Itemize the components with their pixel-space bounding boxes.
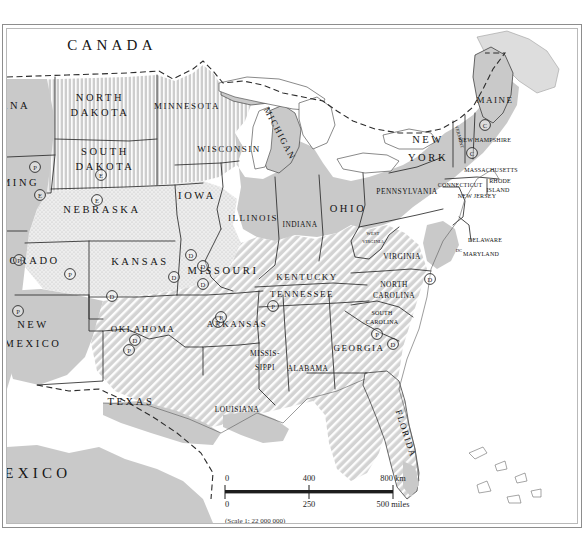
- state-label-georgia: GEORGIA: [334, 343, 385, 353]
- island-3: [515, 473, 527, 483]
- marker-letter: P: [16, 308, 20, 315]
- state-label-minnesota: MINNESOTA: [154, 101, 220, 111]
- island-5: [507, 495, 521, 503]
- marker-letter: D: [391, 341, 396, 348]
- marker-letter: D: [428, 276, 433, 283]
- map-marker-p-4[interactable]: P: [14, 255, 25, 266]
- map-marker-d-8[interactable]: D: [186, 250, 197, 261]
- map-marker-p-16[interactable]: P: [268, 301, 279, 312]
- scale-bar-graphic: [225, 485, 393, 499]
- state-label-ana: ANA: [7, 100, 30, 111]
- map-canvas[interactable]: CANADAMEXICO ANAOMINGNORTHDAKOTASOUTHDAK…: [7, 29, 577, 523]
- scale-bar: 0 400 800 km 0 250 500 miles (Scale 1: 2…: [225, 474, 409, 523]
- map-marker-d-21[interactable]: D: [388, 339, 399, 350]
- region-mexico: [7, 445, 213, 523]
- state-label-north: NORTH: [76, 92, 125, 103]
- map-marker-c-18[interactable]: C: [467, 148, 478, 159]
- state-label-maine: MAINE: [477, 95, 514, 105]
- marker-letter: D: [172, 274, 177, 281]
- state-label-alabama: ALABAMA: [288, 364, 329, 373]
- map-marker-d-19[interactable]: D: [425, 274, 436, 285]
- marker-letter: P: [219, 314, 223, 321]
- state-label-massachusetts: MASSACHUSETTS: [464, 167, 518, 173]
- marker-letter: C: [483, 122, 488, 129]
- map-marker-p-5[interactable]: P: [65, 269, 76, 280]
- marker-letter: P: [127, 347, 131, 354]
- state-label-delaware: DELAWARE: [468, 237, 502, 243]
- state-label-oming: OMING: [7, 177, 39, 188]
- map-marker-d-9[interactable]: D: [198, 261, 209, 272]
- marker-letter: E: [38, 192, 42, 199]
- scale-mi-250: 250: [303, 500, 316, 509]
- scale-km-400: 400: [303, 474, 316, 483]
- marker-letter: D: [201, 263, 206, 270]
- lake-erie: [337, 153, 399, 173]
- state-label-new-hampshire: NEW HAMPSHIRE: [459, 137, 511, 143]
- scale-mi-500: 500 miles: [377, 500, 410, 509]
- state-label-indiana: INDIANA: [282, 220, 317, 229]
- marker-letter: D: [201, 281, 206, 288]
- state-label-nebraska: NEBRASKA: [63, 204, 140, 215]
- map-marker-c-17[interactable]: C: [480, 120, 491, 131]
- map-marker-p-6[interactable]: P: [13, 306, 24, 317]
- region-louisiana-delta: [223, 411, 289, 443]
- map-marker-e-3[interactable]: E: [92, 195, 103, 206]
- state-label-maryland: MARYLAND: [463, 251, 499, 257]
- island-2: [495, 461, 507, 471]
- marker-letter: P: [375, 331, 379, 338]
- state-label-kansas: KANSAS: [111, 256, 169, 267]
- state-label-virginia: VIRGINIA: [362, 239, 384, 244]
- map-marker-d-10[interactable]: D: [198, 279, 209, 290]
- state-label-tennessee: TENNESSEE: [270, 289, 334, 299]
- state-label-wisconsin: WISCONSIN: [197, 144, 261, 154]
- state-label-virginia: VIRGINIA: [383, 252, 421, 261]
- state-label-missis: MISSIS-: [250, 349, 280, 358]
- island-4: [477, 481, 491, 493]
- state-label-ohio: OHIO: [330, 203, 367, 214]
- state-label-south: SOUTH: [371, 310, 392, 316]
- marker-letter: E: [95, 197, 99, 204]
- state-label-connecticut: CONNECTICUT: [438, 182, 483, 188]
- country-label-canada: CANADA: [67, 37, 156, 53]
- scale-km-800: 800 km: [380, 474, 406, 483]
- marker-letter: D: [110, 293, 115, 300]
- map-marker-d-7[interactable]: D: [107, 291, 118, 302]
- map-marker-p-14[interactable]: P: [124, 345, 135, 356]
- map-figure: CANADAMEXICO ANAOMINGNORTHDAKOTASOUTHDAK…: [0, 0, 588, 550]
- island-1: [469, 447, 487, 459]
- state-label-carolina: CAROLINA: [373, 291, 415, 300]
- marker-letter: C: [470, 150, 475, 157]
- state-label-iowa: IOWA: [178, 190, 216, 201]
- state-label-mexico: MEXICO: [7, 338, 62, 349]
- map-marker-p-20[interactable]: P: [372, 329, 383, 340]
- great-lakes-group: [219, 77, 437, 173]
- marker-letter: E: [99, 172, 103, 179]
- marker-letter: P: [17, 257, 21, 264]
- state-label-texas: TEXAS: [108, 396, 155, 407]
- map-marker-d-13[interactable]: D: [130, 335, 141, 346]
- state-label-rhode: RHODE: [489, 178, 511, 184]
- state-label-sippi: SIPPI: [255, 363, 275, 372]
- map-marker-p-15[interactable]: P: [216, 312, 227, 323]
- state-label-carolina: CAROLINA: [366, 319, 399, 325]
- islands-group: [469, 447, 541, 503]
- map-svg[interactable]: CANADAMEXICO ANAOMINGNORTHDAKOTASOUTHDAK…: [7, 29, 577, 523]
- state-label-kentucky: KENTUCKY: [276, 272, 338, 282]
- state-label-west: WEST: [367, 231, 380, 236]
- scale-km-0: 0: [225, 474, 229, 483]
- map-marker-e-2[interactable]: E: [96, 170, 107, 181]
- state-label-new-jersey: NEW JERSEY: [458, 193, 497, 199]
- marker-letter: D: [133, 337, 138, 344]
- map-marker-p-0[interactable]: P: [30, 162, 41, 173]
- marker-letter: P: [271, 303, 275, 310]
- island-6: [531, 489, 541, 497]
- state-label-dc: DC: [456, 248, 463, 253]
- lake-huron: [299, 97, 335, 149]
- state-label-dakota: DAKOTA: [70, 107, 129, 118]
- map-marker-d-11[interactable]: D: [169, 272, 180, 283]
- state-label-oklahoma: OKLAHOMA: [111, 324, 176, 334]
- map-marker-e-1[interactable]: E: [35, 190, 46, 201]
- state-label-new: NEW: [412, 134, 444, 145]
- state-label-york: YORK: [408, 152, 448, 163]
- state-label-illinois: ILLINOIS: [228, 213, 278, 223]
